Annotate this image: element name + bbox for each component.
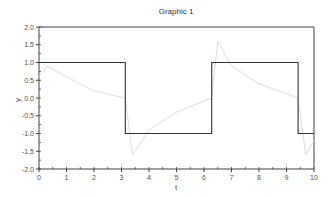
y-tick-label: 0.5 (24, 77, 34, 84)
x-tick-label: 2 (92, 174, 96, 181)
x-tick-label: 8 (257, 174, 261, 181)
x-tick-label: 9 (285, 174, 289, 181)
y-ticks: 2.01.51.00.50.0-0.5-1.0-1.5-2.0 (22, 24, 41, 173)
chart-title: Graphic 1 (159, 7, 194, 16)
x-tick-label: 0 (37, 174, 41, 181)
series (39, 41, 314, 155)
y-tick-label: -1.0 (22, 130, 34, 137)
x-axis-label: t (175, 183, 178, 192)
x-tick-label: 6 (202, 174, 206, 181)
x-tick-label: 4 (147, 174, 151, 181)
x-tick-label: 3 (120, 174, 124, 181)
y-tick-label: 2.0 (24, 24, 34, 31)
y-tick-label: 1.5 (24, 41, 34, 48)
y-tick-label: -2.0 (22, 166, 34, 173)
y-tick-label: -1.5 (22, 148, 34, 155)
x-tick-label: 7 (230, 174, 234, 181)
y-tick-label: -0.5 (22, 112, 34, 119)
x-tick-label: 10 (310, 174, 318, 181)
square-wave-line (39, 63, 314, 134)
chart: Graphic 1 2.01.51.00.50.0-0.5-1.0-1.5-2.… (0, 0, 334, 198)
y-axis-label: y (13, 98, 22, 102)
response-curve-line (39, 41, 314, 155)
y-tick-label: 1.0 (24, 59, 34, 66)
x-tick-label: 5 (175, 174, 179, 181)
x-tick-label: 1 (65, 174, 69, 181)
y-tick-label: 0.0 (24, 95, 34, 102)
plot-area (39, 27, 314, 169)
